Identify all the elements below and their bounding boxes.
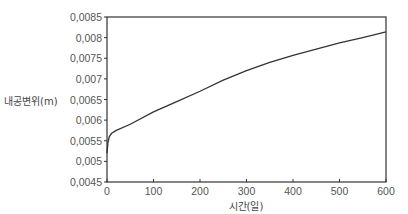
displacement-chart: 0,00450,0050,00550,0060,00650,0070,00750… [0,0,408,214]
displacement-curve [107,32,386,153]
y-tick-label: 0,0085 [70,11,102,23]
x-tick-label: 200 [191,185,209,197]
y-tick-label: 0,0065 [70,94,102,106]
y-tick-label: 0,006 [76,114,102,126]
y-tick-label: 0,0045 [70,176,102,188]
y-tick-label: 0,0075 [70,52,102,64]
y-tick-label: 0,005 [76,155,102,167]
x-tick-label: 500 [331,185,349,197]
y-axis-ticks: 0,00450,0050,00550,0060,00650,0070,00750… [70,11,107,188]
y-axis-label: 내공변위(m) [4,95,58,107]
x-tick-label: 600 [377,185,395,197]
x-tick-label: 100 [145,185,163,197]
y-tick-label: 0,008 [76,32,102,44]
y-tick-label: 0,0055 [70,135,102,147]
x-tick-label: 0 [104,185,110,197]
x-axis-label: 시간(일) [229,201,264,212]
y-tick-label: 0,007 [76,73,102,85]
x-tick-label: 400 [284,185,302,197]
x-tick-label: 300 [238,185,256,197]
